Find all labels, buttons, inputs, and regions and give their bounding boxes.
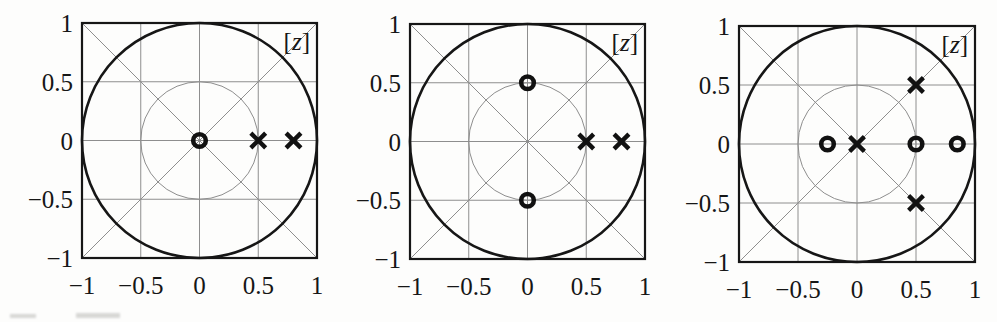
z-plane-label: [z] — [942, 31, 968, 58]
x-tick-label: 0.5 — [571, 273, 602, 300]
y-tick-label: 0.5 — [370, 70, 401, 97]
scan-artifact-smudge — [76, 313, 120, 318]
y-tick-label: −1 — [703, 249, 730, 276]
x-tick-label: 0 — [851, 276, 864, 303]
x-tick-label: −0.5 — [446, 273, 491, 300]
x-tick-label: 0.5 — [243, 272, 274, 299]
z-plane-plot-3: −1−0.500.51−1−0.500.51[z] — [670, 0, 997, 322]
x-tick-label: −1 — [726, 276, 753, 303]
x-tick-label: −1 — [397, 273, 424, 300]
x-tick-label: 0 — [193, 272, 206, 299]
y-tick-label: −1 — [46, 245, 73, 272]
y-tick-label: 1 — [61, 10, 74, 37]
z-plane-plot-panel-1: −1−0.500.51−1−0.500.51[z] — [0, 0, 340, 322]
z-plane-plot-1: −1−0.500.51−1−0.500.51[z] — [0, 0, 340, 322]
y-tick-label: 1 — [718, 13, 731, 40]
z-plane-pole-zero-figure: −1−0.500.51−1−0.500.51[z] −1−0.500.51−1−… — [0, 0, 997, 322]
y-tick-label: −1 — [374, 246, 401, 273]
x-tick-label: −0.5 — [118, 272, 163, 299]
y-tick-label: 0 — [718, 131, 731, 158]
y-tick-label: −0.5 — [28, 186, 73, 213]
z-plane-plot-panel-2: −1−0.500.51−1−0.500.51[z] — [340, 0, 670, 322]
x-tick-label: 0 — [521, 273, 534, 300]
z-plane-plot-panel-3: −1−0.500.51−1−0.500.51[z] — [670, 0, 997, 322]
z-plane-plot-2: −1−0.500.51−1−0.500.51[z] — [340, 0, 670, 322]
scan-artifact-smudge — [10, 314, 36, 318]
x-tick-label: 1 — [969, 276, 982, 303]
z-plane-label: [z] — [284, 28, 310, 55]
y-tick-label: 0.5 — [699, 72, 730, 99]
x-tick-label: −1 — [69, 272, 96, 299]
x-tick-label: 1 — [639, 273, 652, 300]
y-tick-label: 0.5 — [42, 69, 73, 96]
x-tick-label: 1 — [311, 272, 324, 299]
y-tick-label: −0.5 — [356, 187, 401, 214]
y-tick-label: 0 — [389, 129, 402, 156]
y-tick-label: 0 — [61, 128, 74, 155]
y-tick-label: −0.5 — [685, 190, 730, 217]
x-tick-label: 0.5 — [900, 276, 931, 303]
x-tick-label: −0.5 — [775, 276, 820, 303]
z-plane-label: [z] — [612, 29, 638, 56]
y-tick-label: 1 — [389, 11, 402, 38]
